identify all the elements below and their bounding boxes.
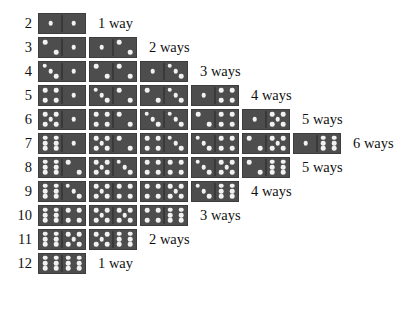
pip [270, 122, 275, 127]
domino-2-5 [242, 133, 290, 154]
pip [145, 170, 150, 175]
pip [105, 194, 110, 199]
pip [247, 160, 252, 165]
pip [167, 63, 172, 68]
pip [219, 183, 224, 188]
pip [179, 194, 184, 199]
die-face-1 [192, 86, 215, 105]
pip [219, 122, 224, 127]
pip [99, 93, 104, 98]
sum-row: 32 ways [0, 36, 190, 58]
sum-label: 9 [0, 180, 38, 202]
die-face-2 [39, 38, 62, 57]
die-face-5 [90, 134, 113, 153]
pip [99, 237, 104, 242]
pip [94, 64, 99, 69]
pip [42, 63, 47, 68]
die-face-4 [62, 206, 85, 225]
pip [43, 135, 48, 140]
pip [94, 122, 99, 127]
pip [43, 146, 48, 151]
pip [144, 111, 149, 116]
pip [117, 208, 122, 213]
domino-group [38, 13, 89, 34]
pip [71, 141, 76, 146]
pip [54, 213, 59, 218]
domino-group [38, 61, 191, 82]
pip [99, 213, 104, 218]
die-face-3 [113, 158, 136, 177]
pip [105, 184, 110, 189]
domino-1-3 [140, 61, 188, 82]
pip [66, 255, 71, 260]
pip [145, 208, 150, 213]
die-face-1 [141, 62, 164, 81]
pip [66, 266, 71, 271]
die-face-2 [113, 86, 136, 105]
domino-group [38, 85, 242, 106]
die-face-4 [141, 134, 164, 153]
pip [145, 184, 150, 189]
pip [77, 242, 82, 247]
pip [230, 112, 235, 117]
pip [43, 159, 48, 164]
pip [54, 146, 59, 151]
pip [201, 165, 206, 170]
pip [105, 146, 110, 151]
pip [150, 117, 155, 122]
pip [105, 112, 110, 117]
sum-row: 43 ways [0, 60, 241, 82]
domino-4-3 [140, 133, 188, 154]
pip [145, 146, 150, 151]
pip [230, 88, 235, 93]
pip [54, 74, 59, 79]
pip [77, 208, 82, 213]
pip [117, 194, 122, 199]
pip [156, 208, 161, 213]
pip [43, 218, 48, 223]
pip [321, 141, 326, 146]
pip [117, 231, 122, 236]
pip [219, 160, 224, 165]
pip [94, 232, 99, 237]
die-face-2 [113, 38, 136, 57]
pip [54, 50, 59, 55]
pip [156, 170, 161, 175]
pip [71, 69, 76, 74]
die-face-3 [164, 86, 187, 105]
pip [54, 237, 59, 242]
dice-sum-chart: 21 way32 ways43 ways54 ways65 ways76 way… [0, 0, 420, 326]
pip [321, 135, 326, 140]
pip [258, 170, 263, 175]
ways-label: 3 ways [200, 60, 241, 82]
domino-5-5 [89, 205, 137, 226]
sum-row: 54 ways [0, 84, 292, 106]
die-face-6 [266, 158, 289, 177]
pip [270, 159, 275, 164]
pip [219, 112, 224, 117]
sum-label: 8 [0, 156, 38, 178]
pip [128, 218, 133, 223]
pip [43, 183, 48, 188]
pip [128, 74, 133, 79]
pip [128, 231, 133, 236]
die-face-4 [215, 110, 238, 129]
domino-group [38, 181, 242, 202]
pip [54, 189, 59, 194]
die-face-6 [39, 182, 62, 201]
die-face-4 [113, 182, 136, 201]
domino-4-4 [140, 157, 188, 178]
die-face-4 [39, 86, 62, 105]
pip [128, 194, 133, 199]
sum-label: 7 [0, 132, 38, 154]
pip [54, 194, 59, 199]
pip [281, 146, 286, 151]
domino-2-3 [140, 85, 188, 106]
die-face-5 [90, 182, 113, 201]
pip [219, 170, 224, 175]
ways-label: 1 way [98, 12, 133, 34]
pip [77, 261, 82, 266]
die-face-6 [39, 206, 62, 225]
pip [66, 232, 71, 237]
die-face-5 [39, 110, 62, 129]
